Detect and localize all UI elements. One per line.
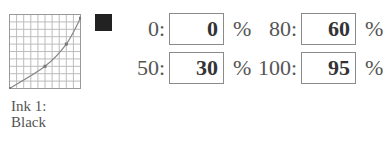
percent-input-100[interactable] (301, 52, 356, 84)
percent-unit-50: % (233, 55, 251, 81)
field-row-50: 50: % (135, 52, 251, 84)
percent-unit-80: % (365, 16, 383, 42)
percent-unit-100: % (365, 55, 383, 81)
field-label-80: 80: (255, 16, 297, 42)
percent-input-50[interactable] (169, 52, 224, 84)
percent-input-80[interactable] (301, 13, 356, 45)
field-label-0: 0: (135, 16, 165, 42)
ink-name-label: Black (11, 114, 46, 130)
field-row-100: 100: % (255, 52, 383, 84)
percent-input-0[interactable] (169, 13, 224, 45)
ink-label: Ink 1: Black (11, 98, 46, 130)
field-label-100: 100: (255, 55, 297, 81)
ink-color-swatch[interactable] (95, 14, 112, 31)
field-row-80: 80: % (255, 13, 383, 45)
transfer-curve-graph[interactable] (9, 14, 81, 89)
ink-number-label: Ink 1: (11, 98, 46, 114)
field-row-0: 0: % (135, 13, 251, 45)
field-label-50: 50: (135, 55, 165, 81)
percent-unit-0: % (233, 16, 251, 42)
curve-grid-icon (9, 14, 81, 89)
